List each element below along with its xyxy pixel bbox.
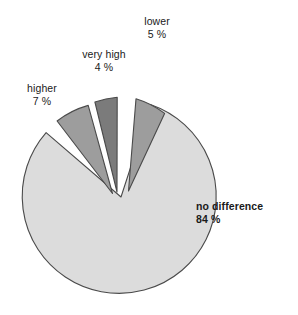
pie-label-very-high-value: 4 %	[62, 61, 146, 74]
pie-slice-no-difference	[22, 105, 216, 294]
pie-label-no-difference-name: no difference	[196, 200, 294, 213]
pie-label-higher-value: 7 %	[6, 95, 78, 108]
pie-label-lower: lower 5 %	[120, 15, 194, 42]
pie-label-higher-name: higher	[6, 82, 78, 95]
pie-label-no-difference-value: 84 %	[196, 213, 294, 226]
pie-label-lower-name: lower	[120, 15, 194, 28]
pie-label-very-high: very high 4 %	[62, 48, 146, 75]
pie-label-no-difference: no difference 84 %	[196, 200, 294, 227]
pie-chart: lower 5 % very high 4 % higher 7 % no di…	[0, 0, 298, 315]
pie-label-higher: higher 7 %	[6, 82, 78, 109]
pie-label-very-high-name: very high	[62, 48, 146, 61]
pie-chart-svg	[0, 0, 298, 315]
pie-label-lower-value: 5 %	[120, 28, 194, 41]
